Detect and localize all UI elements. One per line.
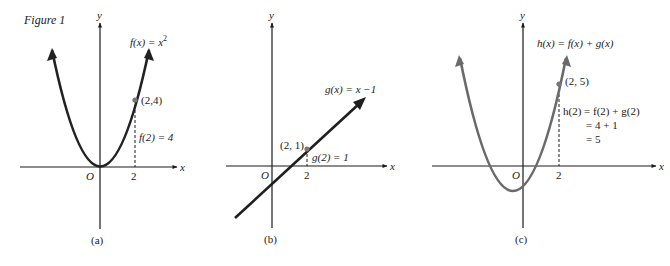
value-label: f(2) = 4 xyxy=(139,131,174,144)
curve-arrow-right-icon xyxy=(144,48,154,61)
point-2-4 xyxy=(132,97,137,102)
value-line-2: = 4 + 1 xyxy=(586,119,618,131)
x-axis-label: x xyxy=(389,160,395,172)
tick-label-2: 2 xyxy=(131,170,137,182)
tick-label-2: 2 xyxy=(556,169,562,181)
value-label: g(2) = 1 xyxy=(312,151,349,164)
origin-label: O xyxy=(261,169,269,181)
curve-arrow-left-icon xyxy=(47,48,57,61)
panel-a: y x O 2 (2,4) f(2) = 4 f(x) = x2 (a) xyxy=(20,9,185,247)
origin-label: O xyxy=(512,169,520,181)
caption: (b) xyxy=(264,233,277,246)
panel-c: y x O 2 (2, 5) h(x) = f(x) + g(x) h(2) =… xyxy=(432,9,664,246)
caption: (c) xyxy=(515,233,528,246)
x-axis-label: x xyxy=(658,160,664,172)
value-line-3: = 5 xyxy=(586,133,601,145)
value-line-1: h(2) = f(2) + g(2) xyxy=(563,105,640,118)
point-label: (2,4) xyxy=(141,94,162,107)
point-label: (2, 1) xyxy=(280,139,304,152)
y-axis-label: y xyxy=(96,9,102,21)
y-axis-label: y xyxy=(268,9,274,21)
figure-canvas: Figure 1 y x O 2 (2,4) f(2) = 4 f(x) = x… xyxy=(0,0,670,266)
panel-b: y x O 2 (2, 1) g(2) = 1 g(x) = x −1 (b) xyxy=(226,9,395,246)
caption: (a) xyxy=(91,234,104,247)
function-label: g(x) = x −1 xyxy=(325,83,376,96)
point-label: (2, 5) xyxy=(565,75,589,88)
figure-title: Figure 1 xyxy=(23,13,65,27)
tick-label-2: 2 xyxy=(304,169,310,181)
point-2-5 xyxy=(556,81,561,86)
x-axis-label: x xyxy=(179,161,185,173)
point-2-1 xyxy=(304,146,309,151)
y-axis-label: y xyxy=(519,9,525,21)
origin-label: O xyxy=(86,170,94,182)
function-label: h(x) = f(x) + g(x) xyxy=(537,37,614,50)
function-label: f(x) = x2 xyxy=(130,34,167,49)
